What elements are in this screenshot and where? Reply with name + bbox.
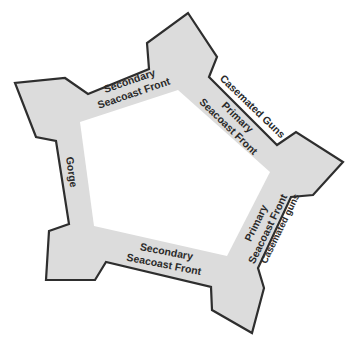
fort-diagram: Secondary Seacoast Front Casemated Guns … bbox=[0, 0, 358, 347]
